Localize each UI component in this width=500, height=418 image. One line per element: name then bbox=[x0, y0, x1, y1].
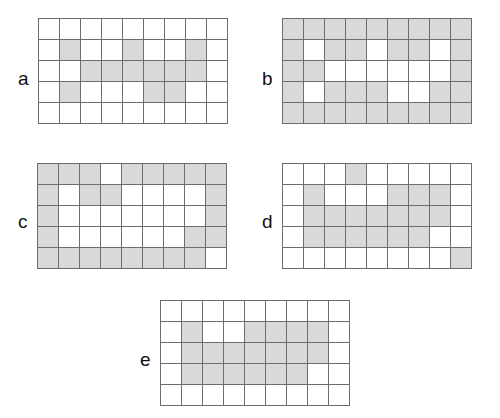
grid-cell-empty bbox=[245, 385, 266, 406]
grid-cell-filled bbox=[367, 227, 388, 248]
grid-cell-empty bbox=[164, 206, 185, 227]
grid-cell-filled bbox=[388, 40, 409, 61]
grid-cell-empty bbox=[304, 164, 325, 185]
grid-cell-filled bbox=[304, 103, 325, 124]
grid-cell-empty bbox=[203, 301, 224, 322]
grid-cell-filled bbox=[81, 61, 102, 82]
grid-cell-filled bbox=[186, 40, 207, 61]
grid-cell-empty bbox=[329, 385, 350, 406]
panel-label-e: e bbox=[140, 350, 151, 369]
grid-cell-empty bbox=[388, 164, 409, 185]
grid-cell-empty bbox=[388, 61, 409, 82]
grid-panel-e: e bbox=[140, 300, 350, 406]
grid-cell-empty bbox=[367, 248, 388, 269]
grid-cell-empty bbox=[287, 301, 308, 322]
grid-cell-empty bbox=[101, 227, 122, 248]
grid-cell-empty bbox=[101, 206, 122, 227]
grid-cell-empty bbox=[346, 185, 367, 206]
grid-cell-empty bbox=[161, 364, 182, 385]
grid-cell-empty bbox=[81, 82, 102, 103]
grid-cell-filled bbox=[304, 61, 325, 82]
grid-cell-empty bbox=[182, 301, 203, 322]
grid-cell-empty bbox=[283, 248, 304, 269]
grid-cell-filled bbox=[388, 206, 409, 227]
grid-cell-filled bbox=[451, 40, 472, 61]
grid-cell-empty bbox=[325, 185, 346, 206]
grid-cell-filled bbox=[38, 185, 59, 206]
grid-cell-empty bbox=[367, 61, 388, 82]
grid-cell-empty bbox=[325, 61, 346, 82]
grid-cell-empty bbox=[165, 103, 186, 124]
grid-cell-empty bbox=[207, 40, 228, 61]
panel-label-c: c bbox=[18, 212, 28, 231]
grid-cell-filled bbox=[59, 164, 80, 185]
grid-cell-filled bbox=[245, 322, 266, 343]
grid-cell-filled bbox=[287, 322, 308, 343]
grid-cell-filled bbox=[144, 82, 165, 103]
grid-cell-empty bbox=[165, 40, 186, 61]
grid-cell-filled bbox=[203, 343, 224, 364]
grid-cell-filled bbox=[185, 164, 206, 185]
grid-cell-filled bbox=[266, 322, 287, 343]
grid-cell-filled bbox=[101, 185, 122, 206]
grid-cell-empty bbox=[451, 164, 472, 185]
grid-cell-empty bbox=[59, 206, 80, 227]
grid-cell-empty bbox=[329, 301, 350, 322]
grid-cell-empty bbox=[186, 103, 207, 124]
grid-cell-empty bbox=[283, 206, 304, 227]
grid-cell-filled bbox=[283, 40, 304, 61]
grid-cell-filled bbox=[346, 164, 367, 185]
grid-cell-empty bbox=[304, 248, 325, 269]
grid-cell-empty bbox=[367, 164, 388, 185]
grid-cell-empty bbox=[164, 185, 185, 206]
grid-cell-filled bbox=[287, 364, 308, 385]
grid-cell-empty bbox=[143, 227, 164, 248]
grid-cell-filled bbox=[308, 343, 329, 364]
grid-cell-empty bbox=[224, 322, 245, 343]
grid-cell-empty bbox=[165, 19, 186, 40]
grid-cell-filled bbox=[304, 227, 325, 248]
grid-cell-filled bbox=[38, 227, 59, 248]
grid-cell-empty bbox=[123, 103, 144, 124]
grid-cell-empty bbox=[451, 227, 472, 248]
grid-cell-empty bbox=[80, 206, 101, 227]
grid-cell-empty bbox=[304, 40, 325, 61]
grid-cell-filled bbox=[451, 61, 472, 82]
grid-cell-empty bbox=[143, 206, 164, 227]
grid-cell-filled bbox=[346, 206, 367, 227]
grid-cell-empty bbox=[102, 82, 123, 103]
grid-panel-d: d bbox=[262, 163, 472, 269]
grid-cell-filled bbox=[367, 82, 388, 103]
grid-cell-empty bbox=[122, 227, 143, 248]
grid-cell-filled bbox=[186, 61, 207, 82]
grid-cell-empty bbox=[39, 40, 60, 61]
grid-cell-empty bbox=[123, 82, 144, 103]
grid-d bbox=[282, 163, 472, 269]
grid-cell-filled bbox=[430, 19, 451, 40]
grid-cell-filled bbox=[102, 61, 123, 82]
grid-cell-filled bbox=[409, 40, 430, 61]
grid-cell-filled bbox=[308, 322, 329, 343]
grid-cell-empty bbox=[430, 40, 451, 61]
grid-cell-filled bbox=[206, 227, 227, 248]
grid-cell-filled bbox=[409, 227, 430, 248]
grid-cell-filled bbox=[203, 364, 224, 385]
grid-cell-filled bbox=[409, 19, 430, 40]
grid-cell-empty bbox=[161, 301, 182, 322]
grid-cell-filled bbox=[388, 185, 409, 206]
grid-panel-c: c bbox=[18, 163, 227, 269]
grid-cell-empty bbox=[207, 82, 228, 103]
grid-cell-empty bbox=[388, 82, 409, 103]
grid-cell-empty bbox=[451, 185, 472, 206]
grid-cell-filled bbox=[122, 164, 143, 185]
grid-cell-filled bbox=[283, 61, 304, 82]
grid-cell-empty bbox=[39, 61, 60, 82]
grid-cell-empty bbox=[409, 82, 430, 103]
grid-cell-filled bbox=[38, 164, 59, 185]
grid-cell-filled bbox=[80, 248, 101, 269]
grid-cell-empty bbox=[39, 103, 60, 124]
grid-cell-filled bbox=[206, 206, 227, 227]
panel-label-a: a bbox=[18, 69, 29, 88]
grid-cell-empty bbox=[81, 19, 102, 40]
grid-cell-filled bbox=[451, 19, 472, 40]
